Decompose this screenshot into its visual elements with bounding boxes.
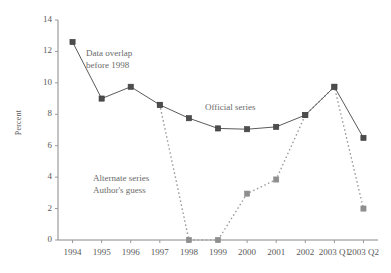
data-point-marker xyxy=(99,96,104,101)
data-point-marker xyxy=(274,124,279,129)
data-point-marker xyxy=(186,237,191,242)
chart-container: Percent 02468101214 19941995199619971998… xyxy=(0,0,391,273)
data-point-marker xyxy=(215,237,220,242)
data-point-marker xyxy=(303,112,308,117)
y-tick-label: 12 xyxy=(28,46,52,55)
annotation-data-overlap: Data overlapbefore 1998 xyxy=(86,47,132,71)
annotation-line: Official series xyxy=(205,101,256,113)
y-tick-label: 0 xyxy=(28,235,52,244)
data-point-marker xyxy=(186,116,191,121)
y-tick-label: 14 xyxy=(28,15,52,24)
annotation-line: Author's guess xyxy=(93,184,149,196)
data-point-marker xyxy=(361,135,366,140)
data-point-marker xyxy=(70,39,75,44)
annotation-alternate-series: Alternate seriesAuthor's guess xyxy=(93,172,149,196)
y-axis-label: Percent xyxy=(14,93,23,153)
annotation-official-series: Official series xyxy=(205,101,256,113)
annotation-line: Alternate series xyxy=(93,172,149,184)
data-point-marker xyxy=(157,102,162,107)
y-tick-label: 10 xyxy=(28,78,52,87)
series-line-alternate xyxy=(160,87,364,240)
y-tick-label: 2 xyxy=(28,204,52,213)
y-tick-label: 8 xyxy=(28,109,52,118)
data-point-marker xyxy=(244,191,249,196)
data-point-marker xyxy=(215,126,220,131)
data-point-marker xyxy=(332,84,337,89)
chart-plot-area xyxy=(0,0,391,273)
annotation-line: before 1998 xyxy=(86,59,132,71)
y-tick-label: 6 xyxy=(28,141,52,150)
data-point-marker xyxy=(361,206,366,211)
series-alternate xyxy=(157,84,366,242)
data-point-marker xyxy=(244,127,249,132)
data-point-marker xyxy=(274,177,279,182)
x-tick-label: 2003 Q2 xyxy=(335,248,391,257)
annotation-line: Data overlap xyxy=(86,47,132,59)
y-tick-label: 4 xyxy=(28,172,52,181)
data-point-marker xyxy=(128,84,133,89)
